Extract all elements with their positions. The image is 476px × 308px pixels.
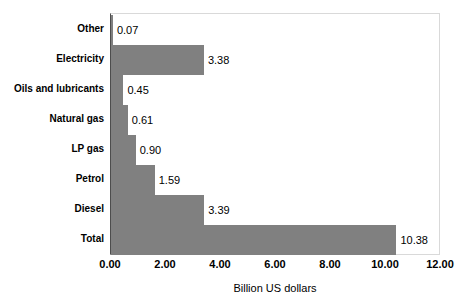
bar-oils-and-lubricants <box>111 75 123 105</box>
category-label: Oils and lubricants <box>14 83 104 94</box>
category-label: Natural gas <box>50 113 104 124</box>
bar-total <box>111 225 396 255</box>
bar-diesel <box>111 195 204 225</box>
bar-lp-gas <box>111 135 136 165</box>
plot-inner: 0.07 3.38 0.45 0.61 0.90 1.59 <box>111 14 439 254</box>
x-tick-label: 2.00 <box>154 258 175 270</box>
category-label: Electricity <box>56 53 104 64</box>
bar-petrol <box>111 165 155 195</box>
bar-electricity <box>111 45 204 75</box>
category-label: Other <box>77 23 104 34</box>
x-tick-label: 12.00 <box>426 258 454 270</box>
category-axis-labels: Other Electricity Oils and lubricants Na… <box>0 13 104 255</box>
bar-chart: Other Electricity Oils and lubricants Na… <box>0 0 476 308</box>
x-tick-label: 8.00 <box>319 258 340 270</box>
x-axis-tick-labels: 0.00 2.00 4.00 6.00 8.00 10.00 12.00 <box>110 258 440 274</box>
x-tick-label: 4.00 <box>209 258 230 270</box>
x-tick-label: 6.00 <box>264 258 285 270</box>
x-axis-title: Billion US dollars <box>110 282 440 294</box>
x-tick-label: 10.00 <box>371 258 399 270</box>
category-label: LP gas <box>71 143 104 154</box>
bar-value: 0.61 <box>128 114 153 126</box>
bar-value: 1.59 <box>155 174 180 186</box>
bar-value: 3.38 <box>204 54 229 66</box>
bar-value: 3.39 <box>204 204 229 216</box>
plot-area: 0.07 3.38 0.45 0.61 0.90 1.59 <box>110 13 440 255</box>
bar-value: 0.90 <box>136 144 161 156</box>
bar-value: 0.45 <box>123 84 148 96</box>
bar-value: 10.38 <box>396 234 428 246</box>
category-label: Petrol <box>76 173 104 184</box>
x-tick-label: 0.00 <box>99 258 120 270</box>
bar-value: 0.07 <box>113 24 138 36</box>
category-label: Total <box>81 233 104 244</box>
bar-natural-gas <box>111 105 128 135</box>
category-label: Diesel <box>75 203 104 214</box>
